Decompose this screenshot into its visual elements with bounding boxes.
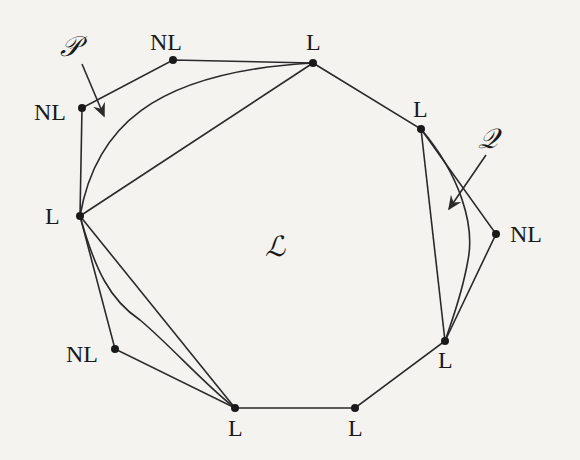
vertex-label: L	[306, 29, 321, 55]
curve-label-P: 𝒫	[60, 31, 88, 62]
vertex-dot	[351, 404, 359, 412]
curve-label-Q: 𝒬	[478, 123, 502, 154]
vertex-dot	[169, 56, 177, 64]
vertex-dot	[78, 104, 86, 112]
vertex-label: NL	[510, 221, 542, 247]
chord-L-right	[421, 129, 445, 341]
vertex-dot	[76, 212, 84, 220]
vertex-label: NL	[34, 99, 66, 125]
region-label-L: ℒ	[265, 231, 286, 262]
vertex-dot	[231, 404, 239, 412]
vertex-dot	[417, 125, 425, 133]
chord-L-top-left	[80, 63, 313, 216]
vertex-dot	[441, 337, 449, 345]
vertex-label: L	[228, 415, 243, 441]
vertex-dot	[111, 345, 119, 353]
chord-L-left-bottom	[80, 216, 235, 408]
vertex-label: L	[45, 203, 60, 229]
vertex-label: L	[438, 347, 453, 373]
polygon-diagram: NL L L NL L L L NL L NL 𝒫 𝒬 ℒ	[0, 0, 580, 460]
curve-Q	[421, 129, 470, 341]
vertex-dot	[309, 59, 317, 67]
vertex-label: NL	[66, 341, 98, 367]
vertex-dot	[492, 230, 500, 238]
vertex-label: L	[413, 96, 428, 122]
vertex-label: NL	[150, 29, 182, 55]
vertex-label: L	[348, 415, 363, 441]
